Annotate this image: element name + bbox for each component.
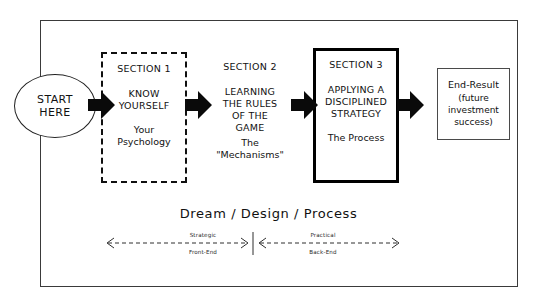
section-3-heading-line1: APPLYING A <box>328 84 385 95</box>
measure-practical-arrow <box>259 238 399 248</box>
end-result-box: End-Result (future investment success) <box>437 68 510 140</box>
dream-design-process-caption: Dream / Design / Process <box>0 206 537 221</box>
measure-arrows <box>0 226 537 266</box>
arrow-section3-to-end-result <box>397 90 425 120</box>
section-2-label: SECTION 2 <box>223 61 277 72</box>
section-1-heading: KNOW YOURSELF <box>119 88 170 112</box>
arrow-section1-to-section2 <box>185 90 213 120</box>
measure-strategic-top-label: Strategic <box>168 232 238 238</box>
section-1-sub-line1: Your <box>134 124 154 135</box>
section-3-heading-line3: STRATEGY <box>331 108 381 119</box>
section-2-heading: LEARNING THE RULES OF THE GAME <box>223 86 278 135</box>
section-1-heading-line2: YOURSELF <box>119 100 170 111</box>
section-1-heading-line1: KNOW <box>128 88 159 99</box>
measure-strategic-bottom-label: Front-End <box>168 249 238 255</box>
end-result-line1: (future <box>458 93 489 103</box>
section-2-sub-line1: The <box>241 137 259 148</box>
end-result-line3: success) <box>454 117 493 127</box>
section-3-sub-line1: The Process <box>328 132 385 143</box>
measure-strategic-arrow <box>107 238 248 248</box>
diagram-canvas: START HERE SECTION 1 KNOW YOURSELF Your … <box>0 0 537 307</box>
section-1-label: SECTION 1 <box>117 63 171 74</box>
section-2-box: SECTION 2 LEARNING THE RULES OF THE GAME… <box>207 52 293 183</box>
section-1-subtext: Your Psychology <box>117 124 170 148</box>
section-2-heading-line2: THE RULES <box>223 98 278 109</box>
section-3-heading-line2: DISCIPLINED <box>325 96 387 107</box>
end-result-line2: investment <box>448 105 499 115</box>
section-3-box: SECTION 3 APPLYING A DISCIPLINED STRATEG… <box>313 48 399 183</box>
start-here-line1: START <box>37 93 73 106</box>
section-2-heading-line4: GAME <box>236 122 265 133</box>
section-3-label: SECTION 3 <box>329 59 383 70</box>
section-2-subtext: The "Mechanisms" <box>216 137 284 161</box>
arrow-start-to-section1 <box>88 90 116 120</box>
section-2-sub-line2: "Mechanisms" <box>216 149 284 160</box>
section-2-heading-line1: LEARNING <box>225 86 275 97</box>
end-result-detail: (future investment success) <box>448 92 499 128</box>
section-1-sub-line2: Psychology <box>117 136 170 147</box>
section-3-subtext: The Process <box>328 132 385 144</box>
section-2-heading-line3: OF THE <box>232 110 268 121</box>
start-here-line2: HERE <box>39 106 70 119</box>
measure-practical-top-label: Practical <box>288 232 358 238</box>
end-result-title: End-Result <box>448 79 499 92</box>
arrow-section2-to-section3 <box>291 90 319 120</box>
measure-practical-bottom-label: Back-End <box>288 249 358 255</box>
section-3-heading: APPLYING A DISCIPLINED STRATEGY <box>325 84 387 120</box>
start-here-node: START HERE <box>14 74 96 138</box>
